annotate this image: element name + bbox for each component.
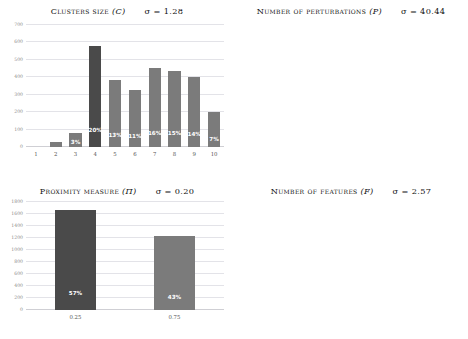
y-axis-tick-label: 0 xyxy=(20,307,23,312)
x-axis-tick-label: 9 xyxy=(193,151,196,157)
y-axis-tick-label: 0 xyxy=(20,144,23,149)
plot-area-proximity-measure: 02004006008001000120014001600180057%0.25… xyxy=(26,202,224,310)
title-symbol: (Π) xyxy=(122,186,137,196)
panel-title-clusters-size: Clusters size (C) σ = 1.28 xyxy=(0,6,234,16)
bar-group[interactable]: 1 xyxy=(26,25,46,147)
bar[interactable]: 11%6 xyxy=(129,90,141,148)
panel-number-of-perturbations: Number of perturbations (P) σ = 40.44 02… xyxy=(234,0,468,180)
bar-percent-label: 43% xyxy=(168,294,181,300)
y-axis-tick-label: 1400 xyxy=(11,223,23,228)
y-axis-tick-label: 200 xyxy=(14,109,23,114)
bar-group[interactable]: 16%7 xyxy=(145,25,165,147)
sigma-label: σ = 40.44 xyxy=(401,6,445,16)
bar-percent-label: 13% xyxy=(108,132,121,138)
bar[interactable]: 2 xyxy=(50,142,62,147)
bar-group[interactable]: 13%5 xyxy=(105,25,125,147)
bar-group[interactable]: 57%0.25 xyxy=(26,202,125,310)
title-symbol: (F) xyxy=(361,186,374,196)
title-text: Number of features xyxy=(271,186,358,196)
title-text: Number of perturbations xyxy=(257,6,366,16)
x-axis-tick-label: 6 xyxy=(133,151,136,157)
bar[interactable]: 43%0.75 xyxy=(154,236,196,310)
panel-proximity-measure: Proximity measure (Π) σ = 0.20 020040060… xyxy=(0,180,234,339)
bar[interactable]: 15%8 xyxy=(168,71,180,147)
x-axis-tick-label: 5 xyxy=(113,151,116,157)
sigma-label: σ = 2.57 xyxy=(393,186,432,196)
y-axis-tick-label: 1800 xyxy=(11,199,23,204)
y-axis-tick-label: 1600 xyxy=(11,211,23,216)
y-axis-tick-label: 600 xyxy=(14,271,23,276)
y-axis-tick-label: 1200 xyxy=(11,235,23,240)
bar-group[interactable]: 15%8 xyxy=(165,25,185,147)
y-axis-tick-label: 500 xyxy=(14,56,23,61)
title-symbol: (P) xyxy=(369,6,382,16)
bar[interactable]: 16%7 xyxy=(149,68,161,147)
y-axis-tick-label: 100 xyxy=(14,126,23,131)
bar[interactable]: 3%3 xyxy=(69,133,81,147)
x-axis-tick-label: 7 xyxy=(153,151,156,157)
y-axis-tick-label: 200 xyxy=(14,295,23,300)
x-axis-tick-label: 4 xyxy=(94,151,97,157)
bar-percent-label: 15% xyxy=(168,130,181,136)
panel-title-proximity-measure: Proximity measure (Π) σ = 0.20 xyxy=(0,186,234,196)
bar[interactable]: 14%9 xyxy=(188,77,200,147)
bar-percent-label: 7% xyxy=(209,136,219,142)
x-axis-tick-label: 10 xyxy=(211,151,218,157)
x-axis-tick-label: 0.75 xyxy=(168,314,180,320)
panel-clusters-size: Clusters size (C) σ = 1.28 0100200300400… xyxy=(0,0,234,180)
x-axis-tick-label: 2 xyxy=(54,151,57,157)
bar-percent-label: 20% xyxy=(89,127,102,133)
bar-group[interactable]: 14%9 xyxy=(184,25,204,147)
y-axis-tick-label: 300 xyxy=(14,91,23,96)
y-axis-tick-label: 600 xyxy=(14,39,23,44)
bar-percent-label: 57% xyxy=(69,290,82,296)
y-axis-tick-label: 800 xyxy=(14,259,23,264)
x-axis-tick-label: 3 xyxy=(74,151,77,157)
bar-group[interactable]: 43%0.75 xyxy=(125,202,224,310)
bar-percent-label: 11% xyxy=(128,133,141,139)
x-axis-tick-label: 1 xyxy=(34,151,37,157)
plot-area-clusters-size: 0100200300400500600700123%320%413%511%61… xyxy=(26,25,224,147)
title-symbol: (C) xyxy=(112,6,126,16)
bar-percent-label: 16% xyxy=(148,130,161,136)
y-axis-tick-label: 400 xyxy=(14,74,23,79)
sigma-label: σ = 0.20 xyxy=(156,186,195,196)
bar-percent-label: 3% xyxy=(71,139,81,145)
panel-number-of-features: Number of features (F) σ = 2.57 01002003… xyxy=(234,180,468,339)
bar-group[interactable]: 3%3 xyxy=(66,25,86,147)
title-text: Clusters size xyxy=(51,6,109,16)
panel-title-number-of-features: Number of features (F) σ = 2.57 xyxy=(234,186,468,196)
bar-group[interactable]: 20%4 xyxy=(85,25,105,147)
bar-percent-label: 14% xyxy=(188,131,201,137)
bar[interactable]: 7%10 xyxy=(208,112,220,147)
bar-series: 57%0.2543%0.75 xyxy=(26,202,224,310)
bar-group[interactable]: 7%10 xyxy=(204,25,224,147)
bar-group[interactable]: 2 xyxy=(46,25,66,147)
bar[interactable]: 20%4 xyxy=(89,46,101,147)
sigma-label: σ = 1.28 xyxy=(145,6,184,16)
bar-group[interactable]: 11%6 xyxy=(125,25,145,147)
y-axis-tick-label: 400 xyxy=(14,283,23,288)
bar[interactable]: 57%0.25 xyxy=(55,210,97,310)
bar[interactable]: 13%5 xyxy=(109,80,121,147)
y-axis-tick-label: 1000 xyxy=(11,247,23,252)
panel-title-number-of-perturbations: Number of perturbations (P) σ = 40.44 xyxy=(234,6,468,16)
x-axis-tick-label: 0.25 xyxy=(69,314,81,320)
bar-series: 123%320%413%511%616%715%814%97%10 xyxy=(26,25,224,147)
title-text: Proximity measure xyxy=(40,186,119,196)
x-axis-tick-label: 8 xyxy=(173,151,176,157)
y-axis-tick-label: 700 xyxy=(14,22,23,27)
figure-grid: Clusters size (C) σ = 1.28 0100200300400… xyxy=(0,0,468,339)
